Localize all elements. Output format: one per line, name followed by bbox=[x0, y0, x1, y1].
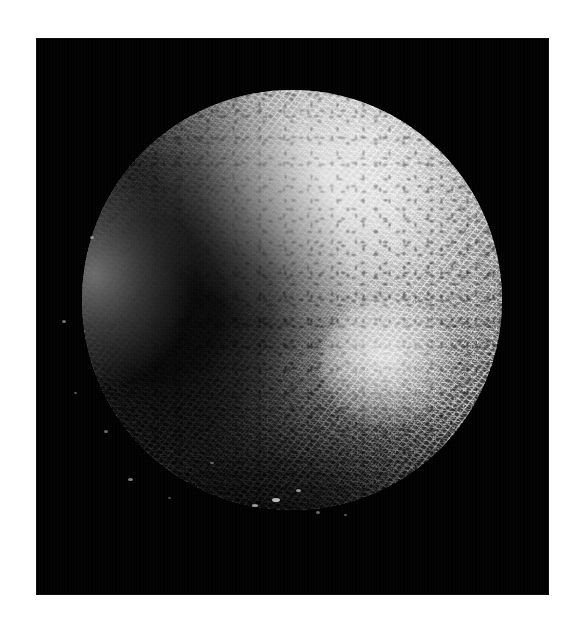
debris-speck bbox=[344, 514, 347, 516]
filament-void-layer bbox=[82, 90, 502, 510]
debris-speck bbox=[316, 511, 320, 514]
debris-speck bbox=[62, 320, 66, 323]
spherical-aggregate bbox=[82, 90, 502, 510]
debris-speck bbox=[74, 392, 77, 394]
micrograph-panel bbox=[36, 38, 549, 595]
figure-plate: Scanning electron micrograph of a roughl… bbox=[0, 0, 581, 634]
